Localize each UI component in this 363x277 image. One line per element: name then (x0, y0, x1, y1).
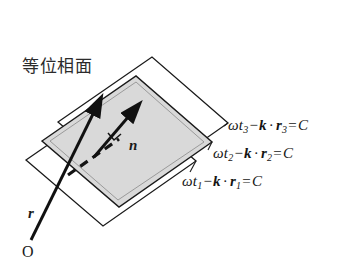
minus-operator-eq1: − (202, 173, 213, 189)
normal-vector-label: n (129, 137, 137, 154)
omega-symbol-eq2: ω (213, 145, 224, 161)
wavevector-symbol-eq1: k (213, 173, 221, 189)
equiphase-planes-figure (0, 0, 363, 277)
wavevector-symbol-eq2: k (244, 145, 252, 161)
equals-operator-eq3: = (287, 117, 298, 133)
position-vector-label: r (28, 205, 34, 222)
equals-operator-eq1: = (241, 173, 252, 189)
dot-operator-eq1: · (221, 173, 230, 189)
dot-operator-eq2: · (252, 145, 261, 161)
equation-plane-3: ωt3−k·r3=C (228, 117, 308, 135)
equiphase-surface-caption: 等位相面 (22, 52, 92, 77)
equation-plane-2: ωt2−k·r2=C (213, 145, 293, 163)
dot-operator-eq3: · (267, 117, 276, 133)
equals-operator-eq2: = (272, 145, 283, 161)
constant-symbol-eq2: C (283, 145, 293, 161)
minus-operator-eq3: − (248, 117, 259, 133)
omega-symbol-eq1: ω (182, 173, 193, 189)
omega-symbol-eq3: ω (228, 117, 239, 133)
wavevector-symbol-eq3: k (259, 117, 267, 133)
constant-symbol-eq1: C (252, 173, 262, 189)
minus-operator-eq2: − (233, 145, 244, 161)
equation-plane-1: ωt1−k·r1=C (182, 173, 262, 191)
constant-symbol-eq3: C (298, 117, 308, 133)
origin-label: O (22, 243, 34, 261)
